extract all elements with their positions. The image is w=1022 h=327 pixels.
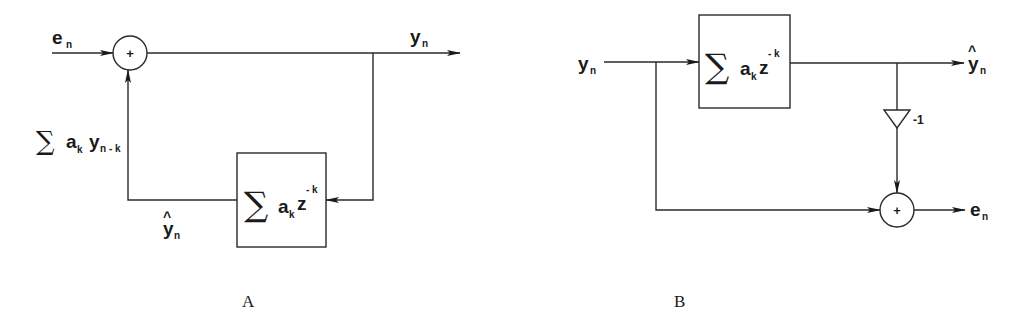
panel-a-sum-k: k <box>77 144 83 155</box>
panel-a-block-a-sub: k <box>289 209 295 220</box>
panel-b-block-z: z <box>759 57 769 78</box>
panel-b-gain-label: -1 <box>913 113 924 127</box>
panel-b-output-label: y <box>968 53 979 74</box>
panel-b-input-label: y <box>578 53 589 74</box>
panel-a-sum-sigma: ∑ <box>36 126 55 156</box>
panel-a-pred-sub: n <box>174 230 180 241</box>
panel-b-block-z-sup: - k <box>768 48 780 59</box>
panel-b-output-sub: n <box>980 65 986 76</box>
panel-b: y n ∑ a k z - k ^ y n -1 + e n B <box>578 15 988 311</box>
panel-a-caption: A <box>242 292 255 311</box>
block-diagram: e n + y n ∑ a k z - k ∑ a k y n - k ^ y … <box>0 0 1022 327</box>
panel-b-adder-plus: + <box>893 203 901 218</box>
panel-b-input-sub: n <box>590 65 596 76</box>
panel-a-block-z: z <box>297 193 307 214</box>
panel-a-feedback-line <box>326 53 373 200</box>
panel-b-gain-triangle <box>884 110 910 128</box>
panel-a-adder-plus: + <box>126 46 134 61</box>
panel-b-bypass-line <box>656 62 880 210</box>
panel-a-sum-y: y <box>89 131 100 152</box>
panel-a-input-label: e <box>52 27 63 48</box>
panel-a-output-label: y <box>410 26 421 47</box>
panel-b-sigma: ∑ <box>705 46 729 86</box>
panel-b-error-label: e <box>970 199 981 220</box>
panel-a-pred-label: y <box>163 218 174 239</box>
panel-a-sum-a: a <box>66 131 77 152</box>
panel-b-error-sub: n <box>982 211 988 222</box>
panel-a-input-sub: n <box>66 39 72 50</box>
panel-a-sigma: ∑ <box>244 184 268 224</box>
panel-b-caption: B <box>674 292 685 311</box>
panel-a-sum-y-sub: n - k <box>100 143 121 154</box>
panel-a: e n + y n ∑ a k z - k ∑ a k y n - k ^ y … <box>36 26 460 311</box>
panel-b-block-a-sub: k <box>751 71 757 82</box>
panel-a-block-a: a <box>278 196 289 217</box>
panel-a-output-sub: n <box>422 38 428 49</box>
panel-a-block-z-sup: - k <box>306 184 318 195</box>
panel-a-return-line <box>128 70 237 200</box>
panel-b-block-a: a <box>740 58 751 79</box>
